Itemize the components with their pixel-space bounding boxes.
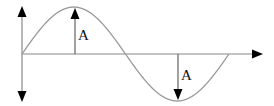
trough-amplitude-label: A xyxy=(181,67,192,83)
sine-wave-diagram: A A xyxy=(0,0,274,106)
arrow-down-icon xyxy=(18,91,27,102)
crest-amplitude-marker: A xyxy=(71,8,90,54)
arrow-right-icon xyxy=(252,50,263,59)
arrow-up-icon xyxy=(18,6,27,17)
trough-amplitude-marker: A xyxy=(174,54,193,100)
arrow-up-icon xyxy=(71,8,80,19)
arrow-down-icon xyxy=(174,89,183,100)
crest-amplitude-label: A xyxy=(78,27,89,43)
